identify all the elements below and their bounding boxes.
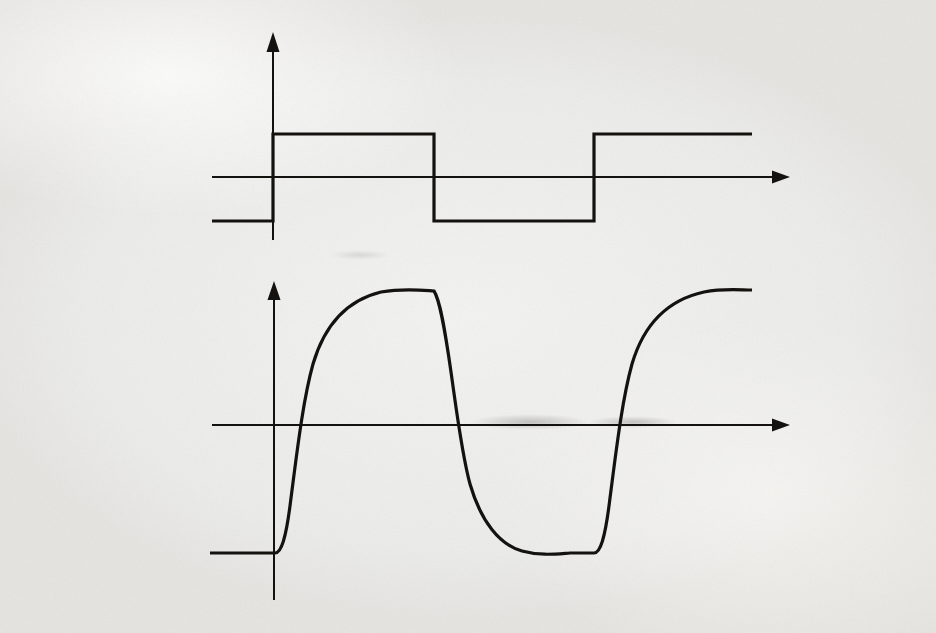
scanned-textbook-page bbox=[0, 0, 936, 633]
output-waveform-plot bbox=[0, 0, 936, 633]
output-rc-response-trace bbox=[210, 290, 752, 555]
